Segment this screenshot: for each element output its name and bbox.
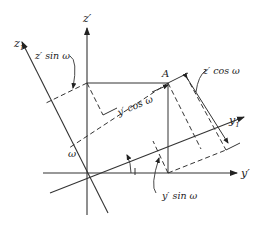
z1-label: z1 — [13, 37, 24, 52]
omega-label: ω — [68, 148, 76, 159]
y-sin-label: y′ sin ω — [161, 190, 198, 201]
y-sin-leader — [154, 158, 159, 193]
point-a-label: A — [161, 68, 169, 79]
z-sin-leader — [70, 56, 75, 88]
y-prime-proj-to-y1 — [153, 141, 168, 173]
z-cos-dim-ext2 — [226, 143, 240, 150]
y-cos-dim-line-left — [103, 108, 117, 115]
omega-arc — [127, 155, 131, 173]
z-prime-proj-to-z1 — [46, 83, 87, 103]
y1-label: y1 — [228, 114, 240, 129]
y-prime-label: y′ — [240, 167, 250, 180]
y-prime-proj-parallel — [168, 150, 226, 173]
y-cos-dim-line-right — [152, 85, 168, 92]
z-prime-label: z′ — [82, 12, 92, 25]
z-cos-dim-ext1 — [168, 73, 188, 83]
z-prime-proj-to-y1 — [87, 83, 103, 115]
z-cos-label: z′ cos ω — [202, 65, 240, 76]
y-cos-label: y′ cos ω — [115, 93, 155, 118]
rotation-diagram: z′ z1 A y1 y′ ω z′ sin ω z′ cos ω y′ cos… — [0, 0, 260, 228]
z-sin-label: z′ sin ω — [34, 50, 70, 61]
z1-parallel-dash — [186, 76, 226, 150]
